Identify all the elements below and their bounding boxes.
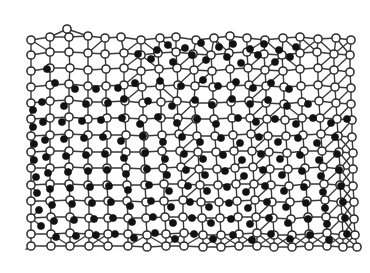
filled-atom <box>42 153 49 160</box>
open-atom <box>210 34 218 42</box>
filled-atom <box>131 79 138 86</box>
open-atom <box>85 242 93 250</box>
filled-atom <box>32 173 39 180</box>
open-atom <box>179 213 187 221</box>
filled-atom <box>188 214 195 221</box>
filled-atom <box>327 119 334 126</box>
filled-atom <box>38 98 45 105</box>
filled-atom <box>190 230 197 237</box>
filled-atom <box>35 206 42 213</box>
filled-atom <box>169 58 176 65</box>
open-atom <box>199 243 207 251</box>
filled-atom <box>197 39 204 46</box>
open-atom <box>172 48 180 56</box>
open-atom <box>194 148 202 156</box>
open-atom <box>348 133 356 141</box>
filled-atom <box>240 172 247 179</box>
open-atom <box>251 196 259 204</box>
open-atom <box>180 229 188 237</box>
open-atom <box>104 242 112 250</box>
open-atom <box>212 148 220 156</box>
open-atom <box>249 163 257 171</box>
open-atom <box>47 242 55 250</box>
filled-atom <box>271 115 278 122</box>
filled-atom <box>285 85 292 92</box>
filled-atom <box>33 189 40 196</box>
filled-atom <box>130 234 137 241</box>
filled-atom <box>180 150 187 157</box>
filled-atom <box>343 230 350 237</box>
open-atom <box>282 132 290 140</box>
filled-atom <box>29 106 36 113</box>
open-atom <box>138 83 146 91</box>
open-atom <box>346 51 354 59</box>
filled-atom <box>237 59 244 66</box>
filled-atom <box>234 114 241 121</box>
filled-atom <box>238 156 245 163</box>
open-atom <box>332 34 340 42</box>
filled-atom <box>186 198 193 205</box>
filled-atom <box>60 135 67 142</box>
open-atom <box>350 215 358 223</box>
open-atom <box>158 131 166 139</box>
filled-atom <box>30 140 37 147</box>
filled-atom <box>248 236 255 243</box>
open-atom <box>232 180 240 188</box>
filled-atom <box>313 139 320 146</box>
open-atom <box>270 243 278 251</box>
filled-atom <box>153 46 160 53</box>
open-atom <box>319 163 327 171</box>
filled-atom <box>304 215 311 222</box>
open-atom <box>102 82 110 90</box>
filled-atom <box>60 102 67 109</box>
open-atom <box>339 243 347 251</box>
open-atom <box>315 97 323 105</box>
open-atom <box>27 148 35 156</box>
open-atom <box>27 164 35 172</box>
filled-atom <box>321 204 328 211</box>
filled-atom <box>199 76 206 83</box>
open-atom <box>46 97 54 105</box>
open-atom <box>27 99 35 107</box>
filled-atom <box>196 138 203 145</box>
filled-atom <box>154 113 161 120</box>
open-atom <box>330 66 338 74</box>
filled-atom <box>52 233 59 240</box>
filled-atom <box>246 45 253 52</box>
open-atom <box>347 36 355 44</box>
open-atom <box>349 165 357 173</box>
filled-atom <box>72 232 79 239</box>
open-atom <box>314 81 322 89</box>
open-atom <box>230 147 238 155</box>
filled-atom <box>84 167 91 174</box>
open-atom <box>214 181 222 189</box>
filled-atom <box>164 41 171 48</box>
filled-atom <box>319 188 326 195</box>
filled-atom <box>118 114 125 121</box>
filled-atom <box>315 156 322 163</box>
open-atom <box>199 231 207 239</box>
open-atom <box>297 82 305 90</box>
filled-atom <box>335 166 342 173</box>
filled-atom <box>147 55 154 62</box>
open-atom <box>27 51 35 59</box>
open-atom <box>142 214 150 222</box>
filled-atom <box>29 123 36 130</box>
open-atom <box>65 48 73 56</box>
open-atom <box>27 132 35 140</box>
open-atom <box>27 197 35 205</box>
filled-atom <box>51 79 58 86</box>
open-atom <box>66 242 74 250</box>
filled-atom <box>188 51 195 58</box>
open-atom <box>233 197 241 205</box>
open-atom <box>217 231 225 239</box>
filled-atom <box>260 40 267 47</box>
open-atom <box>288 243 296 251</box>
filled-atom <box>246 100 253 107</box>
filled-atom <box>341 214 348 221</box>
filled-atom <box>275 46 282 53</box>
filled-atom <box>278 171 285 178</box>
filled-atom <box>151 229 158 236</box>
filled-atom <box>306 231 313 238</box>
open-atom <box>124 242 132 250</box>
